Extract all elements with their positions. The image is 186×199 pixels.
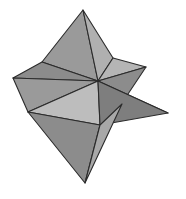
stellated-polyhedron-figure: Stellated polyhedron line drawing bbox=[0, 0, 186, 199]
figure-canvas: Stellated polyhedron line drawing bbox=[0, 0, 186, 199]
faces-group bbox=[13, 10, 168, 183]
